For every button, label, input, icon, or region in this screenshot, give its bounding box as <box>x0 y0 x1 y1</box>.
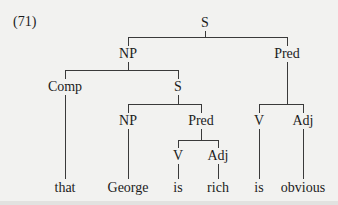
leaf-obvious: obvious <box>281 181 325 195</box>
node-v-main: V <box>254 114 264 128</box>
example-number: (71) <box>13 15 36 29</box>
node-comp: Comp <box>48 80 82 94</box>
leaf-is-embedded: is <box>173 181 182 195</box>
node-np-embedded: NP <box>119 114 137 128</box>
node-s-root: S <box>201 16 209 30</box>
leaf-that: that <box>55 181 76 195</box>
leaf-is-main: is <box>254 181 263 195</box>
node-adj-main: Adj <box>293 114 314 128</box>
page-edge <box>0 201 338 205</box>
syntax-tree-diagram: (71) S NP Pred Comp S NP Pred V Adj V Ad… <box>0 0 338 205</box>
tree-edges <box>0 0 338 205</box>
node-np-subject: NP <box>119 47 137 61</box>
node-pred-main: Pred <box>274 47 300 61</box>
node-v-embedded: V <box>173 149 183 163</box>
node-s-embedded: S <box>174 80 182 94</box>
node-pred-embedded: Pred <box>188 114 214 128</box>
node-adj-embedded: Adj <box>208 149 229 163</box>
leaf-rich: rich <box>207 181 229 195</box>
leaf-george: George <box>108 181 149 195</box>
